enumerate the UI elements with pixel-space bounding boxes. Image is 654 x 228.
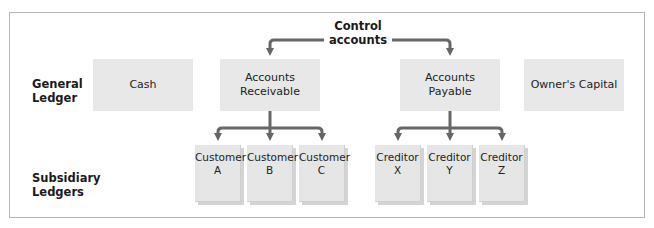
subsidiary-ledger-card: Customer C [299, 145, 345, 202]
account-label: Cash [129, 78, 156, 92]
subsidiary-label-line-2: B [247, 164, 292, 177]
subsidiary-label-line-2: A [195, 164, 240, 177]
subsidiary-label-line-1: Subsidiary [32, 171, 101, 185]
subsidiary-label-line-2: Y [427, 164, 472, 177]
subsidiary-label-line-1: Creditor [427, 151, 472, 164]
subsidiary-label-line-2: Ledgers [32, 185, 101, 199]
subsidiary-ledger-card: Creditor Z [479, 145, 525, 202]
subsidiary-label-line-2: X [375, 164, 420, 177]
account-label-line-2: Payable [425, 85, 475, 99]
subsidiary-ledger-card: Customer A [195, 145, 241, 202]
account-label-line-1: Accounts [240, 71, 300, 85]
general-ledger-row-label: General Ledger [32, 77, 83, 105]
subsidiary-ledgers-row-label: Subsidiary Ledgers [32, 171, 101, 199]
general-ledger-label-line-2: Ledger [32, 91, 83, 105]
subsidiary-label-line-2: Z [479, 164, 524, 177]
control-label-line-1: Control [326, 19, 390, 33]
account-cash: Cash [93, 59, 193, 111]
arrow-control-to-payable [392, 40, 450, 52]
subsidiary-creditor-z: Creditor Z [479, 145, 525, 202]
subsidiary-ledger-card: Creditor Y [427, 145, 473, 202]
control-accounts-label: Control accounts [326, 19, 390, 47]
account-owners-capital: Owner's Capital [524, 59, 624, 111]
subsidiary-label-line-2: C [299, 164, 344, 177]
account-accounts-payable: Accounts Payable [400, 59, 500, 111]
arrow-control-to-receivable [270, 40, 324, 52]
subsidiary-creditor-x: Creditor X [375, 145, 421, 202]
account-label-line-1: Accounts [425, 71, 475, 85]
subsidiary-label-line-1: Customer [247, 151, 292, 164]
subsidiary-customer-b: Customer B [247, 145, 293, 202]
subsidiary-label-line-1: Customer [299, 151, 344, 164]
subsidiary-creditor-y: Creditor Y [427, 145, 473, 202]
subsidiary-label-line-1: Customer [195, 151, 240, 164]
subsidiary-label-line-1: Creditor [375, 151, 420, 164]
subsidiary-label-line-1: Creditor [479, 151, 524, 164]
general-ledger-label-line-1: General [32, 77, 83, 91]
subsidiary-customer-c: Customer C [299, 145, 345, 202]
subsidiary-ledger-card: Customer B [247, 145, 293, 202]
account-accounts-receivable: Accounts Receivable [220, 59, 320, 111]
account-label: Owner's Capital [531, 78, 618, 92]
subsidiary-customer-a: Customer A [195, 145, 241, 202]
control-label-line-2: accounts [326, 33, 390, 47]
account-label-line-2: Receivable [240, 85, 300, 99]
subsidiary-ledger-card: Creditor X [375, 145, 421, 202]
